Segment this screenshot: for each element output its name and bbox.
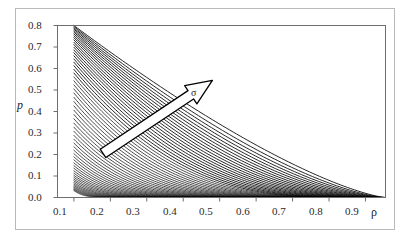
x-tick-label-5: 0.6 bbox=[236, 205, 250, 217]
y-tick-label-5: 0.3 bbox=[28, 126, 42, 138]
sigma-annotation-label: σ bbox=[191, 87, 196, 98]
y-tick-label-6: 0.2 bbox=[28, 148, 42, 160]
x-tick-label-0: 0.1 bbox=[53, 205, 67, 217]
x-tick-label-1: 0.2 bbox=[90, 205, 104, 217]
y-tick-label-7: 0.1 bbox=[28, 169, 42, 181]
x-tick-label-8: 0.9 bbox=[345, 205, 359, 217]
x-tick-label-6: 0.7 bbox=[272, 205, 286, 217]
y-axis-label: p bbox=[17, 98, 23, 113]
curve-family bbox=[74, 26, 386, 198]
y-tick-label-8: 0.0 bbox=[28, 191, 42, 203]
y-tick-label-2: 0.6 bbox=[28, 62, 42, 74]
x-tick-label-3: 0.4 bbox=[163, 205, 177, 217]
figure: 0.8 0.7 0.6 0.5 0.4 0.3 0.2 0.1 0.0 p 0.… bbox=[0, 0, 410, 244]
x-tick-label-4: 0.5 bbox=[199, 205, 213, 217]
y-tick-label-4: 0.4 bbox=[28, 105, 42, 117]
x-tick-label-7: 0.8 bbox=[309, 205, 323, 217]
y-tick-label-0: 0.8 bbox=[28, 19, 42, 31]
x-tick-label-2: 0.3 bbox=[126, 205, 140, 217]
x-axis-label: ρ bbox=[371, 205, 377, 220]
y-tick-label-3: 0.5 bbox=[28, 83, 42, 95]
y-tick-label-1: 0.7 bbox=[28, 40, 42, 52]
